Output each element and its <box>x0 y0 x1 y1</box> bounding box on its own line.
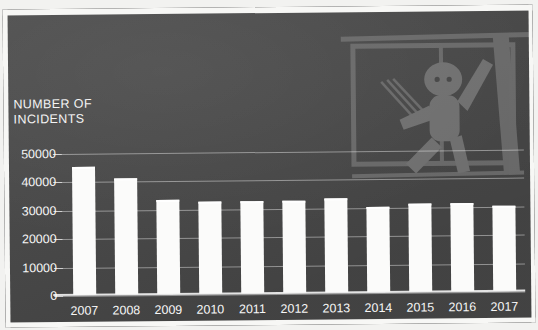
x-axis-tick-label: 2016 <box>440 300 484 314</box>
bar-2017 <box>492 205 516 290</box>
x-axis-tick-label: 2008 <box>104 303 148 317</box>
x-axis-tick-label: 2014 <box>356 301 400 315</box>
bar-2009 <box>156 200 180 294</box>
y-axis-tick-label: 30000 <box>22 204 57 218</box>
y-axis-tick <box>53 182 62 183</box>
page-edge-top <box>2 4 535 15</box>
y-axis-tick-labels: 50000400003000020000100000 <box>6 154 57 296</box>
y-axis-tick <box>53 211 62 212</box>
page-edge-right <box>528 4 535 327</box>
plot-area: 2007200820092010201120122013201420152016… <box>62 150 525 296</box>
y-axis-tick-label: 10000 <box>22 261 57 275</box>
bar-2013 <box>324 199 348 293</box>
y-axis-tick-label: 50000 <box>21 147 56 161</box>
bar-2014 <box>366 207 390 292</box>
y-axis-title-line1: NUMBER OF <box>13 96 143 112</box>
bar-2007 <box>72 167 96 295</box>
y-axis-tick <box>53 154 62 155</box>
y-axis-tick <box>54 296 63 297</box>
y-axis-title-line2: INCIDENTS <box>13 111 143 127</box>
y-axis-tick-label: 20000 <box>22 232 57 246</box>
y-axis-title: NUMBER OF INCIDENTS <box>13 96 143 127</box>
x-axis-tick-label: 2011 <box>230 302 274 316</box>
y-axis-tick-label: 40000 <box>21 175 56 189</box>
gridline <box>62 150 524 155</box>
bar-2010 <box>198 201 222 294</box>
bar-2011 <box>240 201 264 294</box>
x-axis-tick-label: 2012 <box>272 302 316 316</box>
bar-2016 <box>450 203 474 291</box>
page-edge-bottom <box>5 317 535 327</box>
x-axis-tick-label: 2013 <box>314 301 358 315</box>
bar-2015 <box>408 203 432 291</box>
chart-slide: NUMBER OF INCIDENTS 50000400003000020000… <box>2 4 535 327</box>
x-axis-tick-label: 2017 <box>482 300 526 314</box>
y-axis-tick <box>54 268 63 269</box>
x-axis-tick-label: 2009 <box>146 303 190 317</box>
chart-page: NUMBER OF INCIDENTS 50000400003000020000… <box>0 0 538 330</box>
x-axis-tick-label: 2015 <box>398 300 442 314</box>
x-axis-tick-label: 2010 <box>188 302 232 316</box>
bar-2008 <box>114 178 138 295</box>
y-axis-tick <box>54 239 63 240</box>
x-axis-tick-label: 2007 <box>62 304 106 318</box>
bar-2012 <box>282 200 306 293</box>
